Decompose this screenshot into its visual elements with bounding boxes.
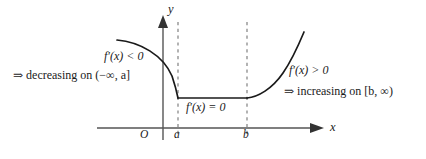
x-axis	[97, 123, 324, 133]
middle-derivative-annotation: f′(x) = 0	[186, 101, 225, 113]
monotonicity-figure: y x O a b f′(x) < 0 ⇒ decreasing on (−∞,…	[0, 0, 426, 159]
x-axis-label: x	[330, 121, 336, 134]
right-derivative-annotation: f′(x) > 0	[289, 64, 328, 76]
left-derivative-annotation: f′(x) < 0	[104, 50, 143, 62]
right-conclusion-annotation: ⇒ increasing on [b, ∞)	[284, 85, 393, 97]
origin-label: O	[140, 129, 148, 141]
y-axis-label: y	[168, 3, 174, 16]
x-tick-label-a: a	[174, 129, 180, 141]
y-axis	[158, 15, 168, 140]
left-conclusion-annotation: ⇒ decreasing on (−∞, a]	[13, 69, 130, 81]
x-tick-label-b: b	[243, 129, 249, 141]
